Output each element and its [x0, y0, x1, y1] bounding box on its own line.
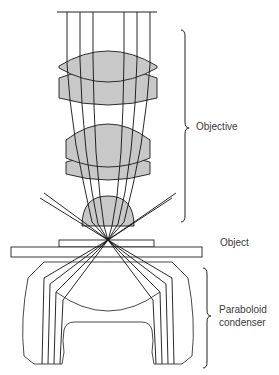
condenser-label-line1: Paraboloid	[219, 304, 267, 316]
objective-lens-doublet-upper	[59, 51, 157, 105]
objective-lens-doublet-middle	[66, 124, 150, 180]
condenser-label-line2: condenser	[219, 317, 266, 329]
condenser-brace	[203, 268, 211, 368]
condenser-rays	[42, 240, 174, 364]
objective-label: Objective	[196, 121, 238, 133]
object-label: Object	[220, 237, 249, 249]
microscope-slide	[11, 247, 202, 257]
objective-brace	[181, 30, 189, 222]
